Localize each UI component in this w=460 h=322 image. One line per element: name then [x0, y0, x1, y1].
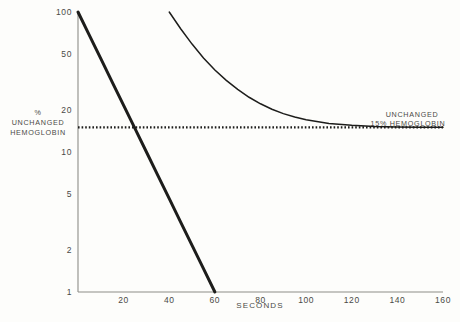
y-tick-label: 10: [61, 147, 72, 157]
x-tick-label: 160: [435, 295, 451, 305]
y-axis-annotation-line-2: UNCHANGED: [12, 118, 65, 127]
x-tick-label: 140: [389, 295, 405, 305]
x-tick-label: 120: [344, 295, 360, 305]
y-axis-annotation-block: % UNCHANGED HEMOGLOBIN: [10, 108, 66, 137]
x-tick-label: 100: [298, 295, 314, 305]
x-tick-label: 20: [118, 295, 129, 305]
chart-figure: 125102050100 20406080100120140160 SECOND…: [0, 0, 460, 322]
y-tick-label: 5: [67, 189, 72, 199]
semilog-decay-chart: 125102050100 20406080100120140160 SECOND…: [0, 0, 460, 322]
x-axis-title: SECONDS: [236, 301, 283, 310]
y-tick-label: 1: [67, 287, 72, 297]
y-axis-annotation-line-1: %: [34, 108, 41, 117]
plateau-annotation-line-1: UNCHANGED: [386, 110, 439, 119]
x-tick-label: 60: [210, 295, 221, 305]
plateau-annotation-block: UNCHANGED 15% HEMOGLOBIN: [371, 110, 446, 128]
x-tick-label: 40: [164, 295, 175, 305]
y-tick-label: 2: [67, 245, 72, 255]
x-axis-tick-labels: 20406080100120140160: [118, 295, 451, 305]
y-tick-label: 20: [61, 105, 72, 115]
y-tick-label: 50: [61, 49, 72, 59]
y-axis-annotation-line-3: HEMOGLOBIN: [10, 128, 66, 137]
y-axis-tick-labels: 125102050100: [56, 7, 72, 297]
plot-axes: [78, 12, 443, 292]
data-series-group: [78, 12, 443, 292]
data-series-line: [78, 12, 215, 292]
y-tick-label: 100: [56, 7, 72, 17]
